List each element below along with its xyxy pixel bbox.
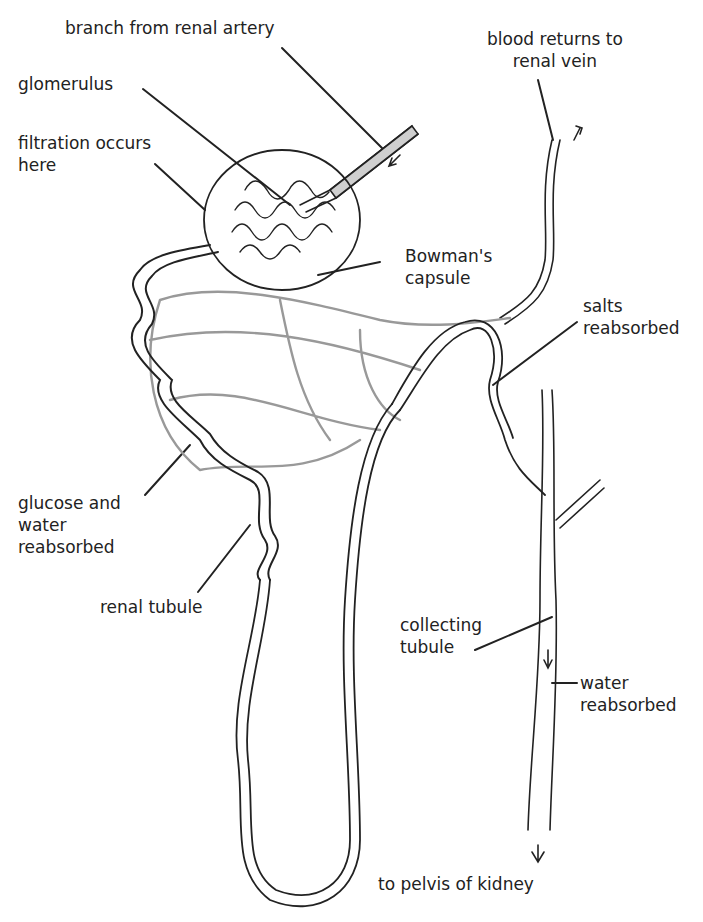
label-renal-tubule: renal tubule bbox=[100, 596, 203, 618]
label-collecting-tubule: collecting tubule bbox=[400, 614, 482, 658]
label-filtration: filtration occurs here bbox=[18, 132, 151, 176]
renal-vein bbox=[500, 140, 560, 324]
label-salts-reabsorbed: salts reabsorbed bbox=[583, 295, 680, 339]
label-pelvis: to pelvis of kidney bbox=[378, 873, 534, 895]
glomerulus bbox=[232, 181, 335, 259]
label-glomerulus: glomerulus bbox=[18, 73, 113, 95]
leader-lines bbox=[143, 48, 577, 683]
capillary-network bbox=[150, 292, 510, 470]
label-renal-vein: blood returns to renal vein bbox=[487, 28, 623, 72]
bowmans-capsule bbox=[204, 150, 360, 290]
label-renal-artery: branch from renal artery bbox=[65, 17, 274, 39]
label-water-reabsorbed: water reabsorbed bbox=[580, 672, 677, 716]
distal-convoluted-tubule bbox=[392, 320, 545, 495]
label-glucose-water: glucose and water reabsorbed bbox=[18, 492, 121, 558]
nephron-diagram: branch from renal artery glomerulus filt… bbox=[0, 0, 703, 922]
collecting-tubule bbox=[528, 390, 604, 830]
loop-of-henle bbox=[236, 404, 400, 906]
label-bowmans-capsule: Bowman's capsule bbox=[405, 245, 492, 289]
